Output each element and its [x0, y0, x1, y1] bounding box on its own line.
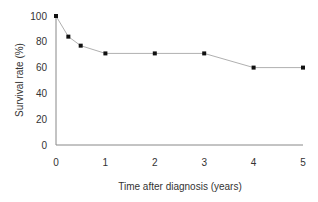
x-tick-labels: 012345 — [53, 157, 306, 168]
y-tick-label: 80 — [36, 36, 48, 47]
x-axis: 012345 — [53, 145, 306, 168]
y-tick-label: 40 — [36, 88, 48, 99]
data-point-marker — [153, 51, 157, 55]
y-axis-label: Survival rate (%) — [14, 43, 25, 117]
y-tick-label: 60 — [36, 62, 48, 73]
series-line — [56, 16, 303, 68]
data-point-marker — [301, 66, 305, 70]
data-point-marker — [66, 35, 70, 39]
x-tick-label: 0 — [53, 157, 59, 168]
x-tick-label: 3 — [201, 157, 207, 168]
data-point-marker — [252, 66, 256, 70]
x-axis-label: Time after diagnosis (years) — [118, 181, 242, 192]
y-tick-label: 20 — [36, 114, 48, 125]
y-tick-label: 0 — [41, 140, 47, 151]
data-point-marker — [103, 51, 107, 55]
data-series — [54, 14, 305, 70]
x-tick-label: 5 — [300, 157, 306, 168]
data-point-marker — [54, 14, 58, 18]
x-tick-label: 2 — [152, 157, 158, 168]
x-tick-label: 4 — [251, 157, 257, 168]
y-tick-labels: 020406080100 — [30, 11, 47, 151]
y-axis: 020406080100 — [30, 11, 56, 151]
x-tick-label: 1 — [103, 157, 109, 168]
survival-chart: 020406080100 012345 Time after diagnosis… — [0, 0, 318, 202]
data-point-marker — [202, 51, 206, 55]
y-tick-label: 100 — [30, 11, 47, 22]
data-point-marker — [79, 44, 83, 48]
